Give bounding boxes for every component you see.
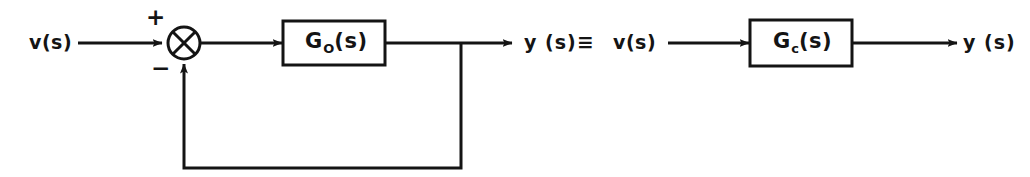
right-block-label-subscript: c [791, 41, 799, 56]
block-diagram: v(s) + − GO(s) y (s) ≡ v(s) Gc(s) y (s) [0, 0, 1030, 177]
right-output-signal-label: y (s) [963, 33, 1016, 52]
forward-block-label-main: G [305, 29, 323, 53]
minus-sign-label: − [151, 57, 171, 80]
left-output-signal-label: y (s) [524, 33, 577, 52]
forward-block-label-subscript: O [323, 41, 335, 56]
forward-block-label: GO(s) [305, 31, 368, 52]
equivalence-symbol: ≡ [577, 32, 594, 52]
right-block-label-arg: (s) [799, 29, 832, 53]
forward-block-label-arg: (s) [334, 29, 367, 53]
right-input-signal-label: v(s) [613, 33, 656, 52]
right-block-label: Gc(s) [773, 31, 832, 52]
input-signal-label: v(s) [29, 33, 72, 52]
right-block-label-main: G [773, 29, 791, 53]
plus-sign-label: + [146, 6, 166, 29]
